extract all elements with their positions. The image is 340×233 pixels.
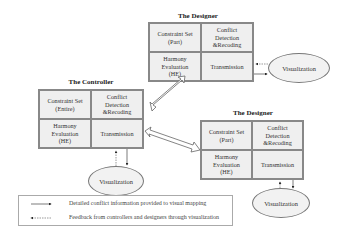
legend-item-feedback: Feedback from controllers and designers … xyxy=(69,214,219,220)
legend: Detailed conflict information provided t… xyxy=(18,195,233,226)
legend-symbols xyxy=(19,196,59,227)
legend-item-detailed: Detailed conflict information provided t… xyxy=(69,200,206,206)
controller-designer-right-link xyxy=(145,127,200,152)
controller-designer-top-link xyxy=(150,76,185,111)
